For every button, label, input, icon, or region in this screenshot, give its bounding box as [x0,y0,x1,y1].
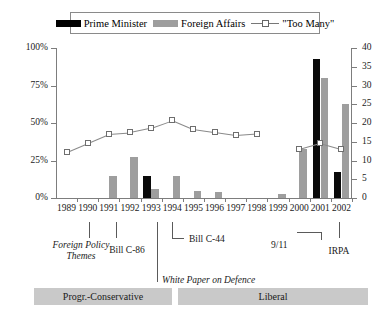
too-many-marker-2001 [317,140,323,146]
black-square-icon [56,20,81,27]
x-axis-tick [119,198,120,202]
left-axis-tick-label: 0% [35,193,48,202]
x-axis-tick [183,198,184,202]
annotation-tick-nine-eleven-horiz [297,232,321,233]
annotation-layer: Foreign Policy Themes Bill C-86 White Pa… [0,216,389,286]
left-axis-tick-label: 75% [31,81,48,90]
gray-square-icon [153,20,178,27]
right-axis-tick-label: 30 [362,81,372,90]
right-axis-tick-label: 20 [362,118,372,127]
bar-foreign-affairs-1999 [278,194,286,198]
too-many-marker-1998 [254,131,260,137]
party-band-progr-conservative: Progr.-Conservative [34,288,172,305]
too-many-marker-1989 [64,149,70,155]
bar-foreign-affairs-1992 [130,157,138,198]
annotation-tick-irpa [339,222,340,238]
x-axis-tick [352,198,353,202]
left-axis-tick-label: 25% [31,156,48,165]
x-axis-label-2002: 2002 [326,203,356,213]
x-axis-labels: 1989199019911992199319941995199619971998… [56,203,352,217]
annotation-label-bill-c-44: Bill C-44 [189,234,225,244]
annotation-tick-bill-c-44-horiz [172,238,184,239]
legend-label-prime-minister: Prime Minister [84,18,147,29]
bar-foreign-affairs-2001 [321,78,329,198]
right-axis-tick-label: 40 [362,43,372,52]
bar-prime-minister-2002 [334,172,342,198]
right-axis-tick [352,104,357,105]
right-axis-tick-label: 5 [362,174,367,183]
plot-area: 0%25%50%75%100%0510152025303540 [56,48,352,198]
too-many-marker-1992 [127,129,133,135]
annotation-label-nine-eleven: 9/11 [271,240,288,250]
right-axis-tick [352,67,357,68]
legend-label-too-many: "Too Many" [282,18,334,29]
too-many-marker-1990 [85,140,91,146]
left-axis-tick [51,198,56,199]
left-axis-tick [51,86,56,87]
bar-foreign-affairs-2000 [299,149,307,198]
line-marker-icon [251,20,279,27]
chart-container: Prime Minister Foreign Affairs "Too Many… [0,0,389,318]
x-axis-tick [77,198,78,202]
right-axis-tick [352,48,357,49]
bar-prime-minister-1993 [143,176,151,199]
right-axis-tick [352,86,357,87]
x-axis-tick [141,198,142,202]
right-axis-tick-label: 35 [362,62,372,71]
x-axis-tick [204,198,205,202]
annotation-tick-bill-c-86 [116,222,117,238]
annotation-tick-nine-eleven-vert [321,232,322,240]
legend-label-foreign-affairs: Foreign Affairs [181,18,245,29]
x-axis-tick [162,198,163,202]
too-many-marker-1991 [106,131,112,137]
bar-foreign-affairs-1994 [173,176,181,199]
too-many-marker-2000 [296,146,302,152]
annotation-tick-white-paper-on-defence [157,222,158,282]
chart-legend: Prime Minister Foreign Affairs "Too Many… [70,12,320,34]
annotation-tick-bill-c-44-vert [172,222,173,238]
legend-item-prime-minister: Prime Minister [56,18,147,29]
left-axis-tick-label: 50% [31,118,48,127]
x-axis-tick [225,198,226,202]
right-axis-tick-label: 25 [362,99,372,108]
left-axis-line [56,48,57,198]
x-axis-tick [246,198,247,202]
bar-foreign-affairs-1993 [151,189,159,198]
too-many-marker-1996 [212,129,218,135]
too-many-marker-1997 [233,132,239,138]
too-many-marker-1994 [169,117,175,123]
x-axis-tick [331,198,332,202]
x-axis-tick [289,198,290,202]
annotation-label-irpa: IRPA [313,246,365,256]
bar-foreign-affairs-1996 [215,192,223,198]
left-axis-tick-label: 100% [26,43,48,52]
legend-item-foreign-affairs: Foreign Affairs [153,18,245,29]
too-many-marker-1995 [190,126,196,132]
right-axis-tick [352,123,357,124]
bar-foreign-affairs-1995 [194,191,202,199]
legend-item-too-many: "Too Many" [251,18,334,29]
right-axis-tick [352,179,357,180]
annotation-label-bill-c-86: Bill C-86 [94,245,160,255]
annotation-label-white-paper-on-defence: White Paper on Defence [162,275,255,285]
too-many-marker-2002 [338,146,344,152]
too-many-marker-1993 [148,125,154,131]
right-axis-tick [352,142,357,143]
x-axis-tick [98,198,99,202]
x-axis-tick [267,198,268,202]
right-axis-tick-label: 15 [362,137,372,146]
right-axis-tick-label: 0 [362,193,367,202]
annotation-tick-foreign-policy-themes [89,222,90,238]
party-band-liberal: Liberal [178,288,368,305]
left-axis-tick [51,48,56,49]
bar-foreign-affairs-1991 [109,176,117,199]
x-axis-tick [310,198,311,202]
party-bands: Progr.-Conservative Liberal [0,288,389,308]
left-axis-tick [51,123,56,124]
right-axis-tick-label: 10 [362,156,372,165]
right-axis-tick [352,161,357,162]
left-axis-tick [51,161,56,162]
bar-prime-minister-2001 [313,59,321,198]
